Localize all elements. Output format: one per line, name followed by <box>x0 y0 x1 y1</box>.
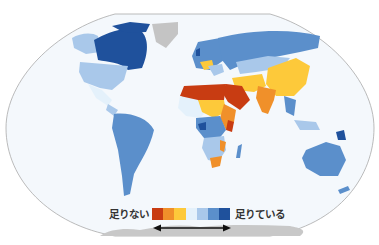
legend-swatch-2 <box>163 208 174 220</box>
legend-swatch-6 <box>208 208 219 220</box>
legend-swatch-3 <box>174 208 185 220</box>
legend-swatch-7 <box>219 208 230 220</box>
map-boundary <box>6 14 374 236</box>
legend-swatch-4 <box>186 208 197 220</box>
double-arrow-icon <box>153 223 231 233</box>
legend-swatch-1 <box>152 208 163 220</box>
legend-swatches <box>152 208 230 220</box>
legend-high-label: 足りている <box>235 207 285 221</box>
legend: 足りない 足りている <box>0 207 379 221</box>
legend-swatch-5 <box>197 208 208 220</box>
legend-low-label: 足りない <box>109 207 149 221</box>
